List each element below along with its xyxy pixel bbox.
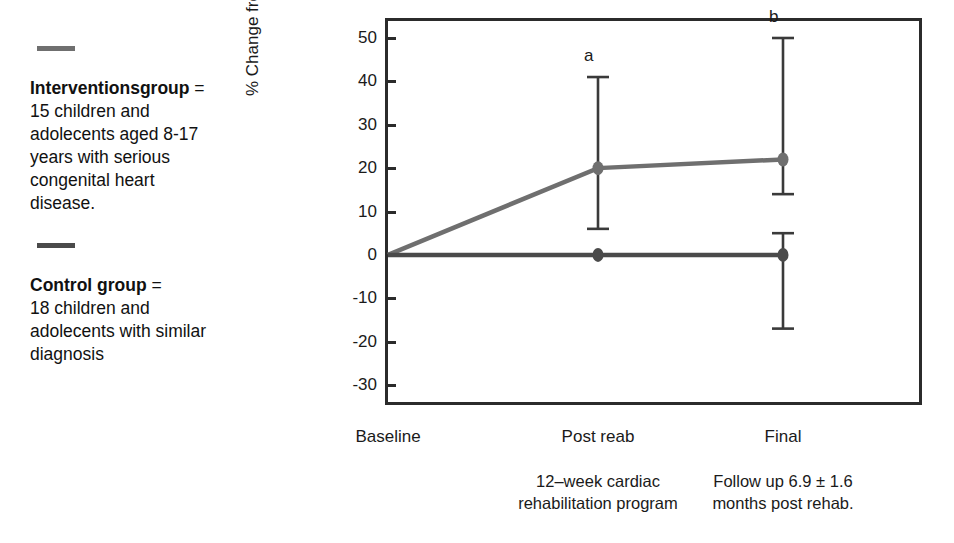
line-chart: % Change from baseline 50403020100-10-20…	[0, 0, 954, 543]
data-point-marker	[593, 161, 604, 175]
plot-series-layer	[0, 0, 954, 543]
series-control-group	[388, 233, 794, 328]
series-line	[388, 159, 783, 254]
data-point-marker	[778, 152, 789, 166]
data-point-marker	[778, 248, 789, 262]
data-point-marker	[593, 248, 604, 262]
series-interventionsgroup	[388, 38, 794, 255]
